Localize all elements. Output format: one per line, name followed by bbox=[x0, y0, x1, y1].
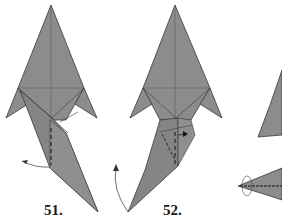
step-51-label: 51. bbox=[44, 202, 63, 218]
step-52-figure bbox=[113, 5, 222, 212]
step-52-label: 52. bbox=[163, 202, 182, 218]
step-51-figure bbox=[6, 5, 98, 212]
step-53-figure bbox=[238, 70, 282, 200]
origami-diagram: 51. 52. bbox=[0, 0, 282, 222]
